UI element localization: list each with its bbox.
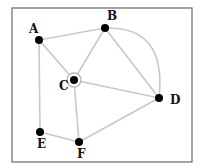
node-a — [35, 36, 43, 44]
node-label-d: D — [170, 93, 180, 107]
node-label-e: E — [37, 137, 46, 151]
node-label-a: A — [28, 22, 39, 36]
node-e — [36, 128, 44, 136]
node-label-b: B — [107, 9, 117, 23]
node-b — [101, 24, 109, 32]
node-f — [75, 138, 83, 146]
node-d — [155, 94, 163, 102]
node-c — [70, 76, 78, 84]
edge-a-e — [39, 40, 40, 132]
node-label-c: C — [59, 79, 69, 93]
graph-diagram: ABCDEF — [0, 0, 204, 168]
node-label-f: F — [77, 147, 86, 161]
